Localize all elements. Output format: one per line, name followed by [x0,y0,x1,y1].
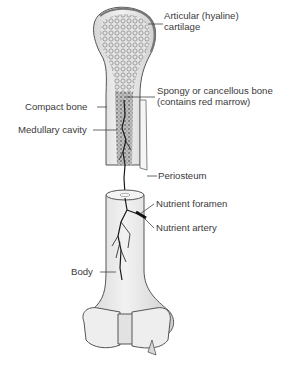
bone-illustration [0,0,297,377]
lower-bone-section [83,190,174,355]
label-spongy-bone-line2: (contains red marrow) [157,96,273,107]
label-spongy-bone-line1: Spongy or cancellous bone [157,85,273,96]
label-periosteum: Periosteum [158,170,207,181]
periosteum [140,100,147,170]
label-body: Body [71,266,93,277]
bone-diagram: Articular (hyaline) cartilage Spongy or … [0,0,297,377]
upper-bone-section [94,7,156,195]
label-compact-bone: Compact bone [25,101,87,112]
label-articular-cartilage-line2: cartilage [164,21,239,32]
label-articular-cartilage-line1: Articular (hyaline) [164,10,239,21]
label-nutrient-foramen: Nutrient foramen [156,198,227,209]
label-articular-cartilage: Articular (hyaline) cartilage [164,10,239,32]
label-spongy-bone: Spongy or cancellous bone (contains red … [157,85,273,107]
label-medullary-cavity: Medullary cavity [18,124,87,135]
label-nutrient-artery: Nutrient artery [156,222,217,233]
